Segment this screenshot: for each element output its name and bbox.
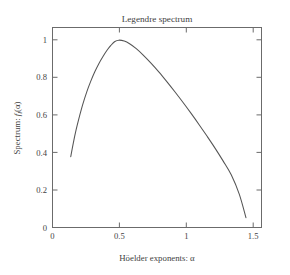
y-tick-label-2: 0.4 <box>36 148 47 158</box>
y-tick-labels: 0 0.2 0.4 0.6 0.8 1 <box>36 35 47 233</box>
y-axis-label-argument: (α) <box>12 101 22 112</box>
x-tick-labels: 0 0.5 1 1.5 <box>50 231 258 241</box>
y-tick-label-3: 0.6 <box>36 110 47 120</box>
y-axis-ticks-right <box>257 40 262 190</box>
y-axis-ticks <box>53 40 58 228</box>
y-tick-label-5: 1 <box>43 35 47 45</box>
y-axis-label-prefix: Spectrum: <box>12 116 22 154</box>
x-axis-label: Höelder exponents: α <box>119 253 195 263</box>
x-axis-ticks-top <box>119 28 253 33</box>
chart-title: Legendre spectrum <box>122 14 193 24</box>
x-tick-label-0: 0 <box>50 231 54 241</box>
legendre-spectrum-chart: Legendre spectrum 0 0.5 1 1.5 <box>0 0 290 275</box>
y-tick-label-1: 0.2 <box>36 185 47 195</box>
plot-frame <box>53 28 262 228</box>
y-axis-label: Spectrum: fl(α) <box>12 101 23 154</box>
x-axis-ticks <box>53 223 254 228</box>
x-tick-label-3: 1.5 <box>248 231 259 241</box>
chart-figure: Legendre spectrum 0 0.5 1 1.5 <box>0 0 290 275</box>
y-tick-label-4: 0.8 <box>36 72 47 82</box>
x-tick-label-2: 1 <box>184 231 188 241</box>
spectrum-curve <box>71 40 246 218</box>
y-tick-label-0: 0 <box>43 223 47 233</box>
x-tick-label-1: 0.5 <box>114 231 125 241</box>
svg-text:Spectrum: fl(α): Spectrum: fl(α) <box>12 101 23 154</box>
